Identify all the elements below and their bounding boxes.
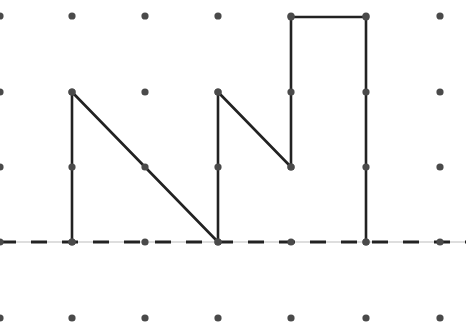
grid-dot	[0, 238, 4, 245]
dot-grid-diagram	[0, 0, 466, 330]
grid-dot	[0, 163, 4, 170]
figure-outline	[72, 17, 366, 242]
vertex-dot	[362, 13, 369, 20]
grid-dot	[362, 163, 369, 170]
grid-dot	[68, 314, 75, 321]
grid-dot	[141, 238, 148, 245]
grid-dot	[141, 163, 148, 170]
grid-dot	[436, 12, 443, 19]
grid-dot	[0, 314, 4, 321]
grid-dot	[362, 314, 369, 321]
grid-dot	[214, 163, 221, 170]
grid-dot	[362, 88, 369, 95]
vertex-dot	[362, 238, 369, 245]
grid-dot	[68, 12, 75, 19]
grid-dot	[436, 88, 443, 95]
grid-dot	[0, 88, 4, 95]
polyline-figure	[72, 17, 366, 242]
grid-dot	[287, 314, 294, 321]
vertex-dot	[287, 13, 294, 20]
grid-dot	[436, 314, 443, 321]
grid-dot	[287, 238, 294, 245]
vertex-dot	[214, 88, 221, 95]
grid-dot	[0, 12, 4, 19]
grid-dot	[436, 238, 443, 245]
grid-dot	[141, 88, 148, 95]
grid-dots	[0, 12, 444, 321]
vertex-dot	[68, 238, 75, 245]
grid-dot	[287, 88, 294, 95]
vertex-dot	[287, 163, 294, 170]
vertex-dot	[68, 88, 75, 95]
grid-dot	[436, 163, 443, 170]
grid-dot	[214, 12, 221, 19]
grid-dot	[141, 314, 148, 321]
grid-dot	[141, 12, 148, 19]
grid-dot	[68, 163, 75, 170]
grid-dot	[214, 314, 221, 321]
vertex-dot	[214, 238, 221, 245]
